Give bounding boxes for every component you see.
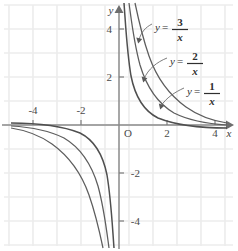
arrowhead-3-over-x: [136, 38, 142, 44]
equation-2-lhs: y: [169, 55, 175, 67]
y-tick-label-2: 2: [107, 71, 113, 83]
equation-1-denominator: x: [208, 95, 215, 107]
hyperbola-graph-figure: -4 -2 2 4 4 2 -2 -4 O x y: [0, 0, 238, 251]
equation-label-1-over-x: y = 1 x: [186, 80, 220, 107]
annotation-arrowheads: [136, 38, 164, 110]
equation-3-lhs: y: [154, 21, 160, 33]
equation-2-equals: =: [177, 55, 183, 67]
leader-line-2-over-x: [144, 58, 167, 79]
origin-label: O: [124, 127, 132, 139]
equation-1-numerator: 1: [209, 80, 215, 92]
y-tick-label-4: 4: [107, 23, 113, 35]
y-tick-label-neg4: -4: [131, 215, 141, 227]
x-tick-label-4: 4: [212, 127, 218, 139]
x-tick-label-neg4: -4: [28, 104, 38, 116]
y-tick-label-neg2: -2: [131, 167, 140, 179]
y-axis-label: y: [108, 4, 114, 16]
equation-3-numerator: 3: [177, 16, 183, 28]
equation-3-denominator: x: [176, 31, 183, 43]
equation-1-equals: =: [194, 85, 200, 97]
x-axis-label: x: [226, 127, 232, 139]
y-axis-arrowhead: [115, 5, 124, 13]
equation-label-2-over-x: y = 2 x: [169, 50, 203, 77]
equation-2-numerator: 2: [192, 50, 198, 62]
equation-1-lhs: y: [186, 85, 192, 97]
equation-3-equals: =: [162, 21, 168, 33]
x-tick-label-2: 2: [164, 127, 170, 139]
graph-canvas: -4 -2 2 4 4 2 -2 -4 O x y: [0, 0, 238, 251]
equation-2-denominator: x: [191, 65, 198, 77]
x-tick-label-neg2: -2: [76, 104, 85, 116]
